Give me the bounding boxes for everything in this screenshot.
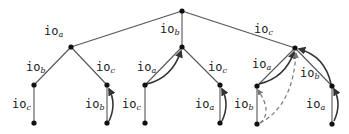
edge-label: iob xyxy=(300,66,320,81)
edge-label: ioa xyxy=(195,97,214,112)
edge-label: iob xyxy=(160,22,180,37)
edge-label: iob xyxy=(26,60,46,75)
edge-label: ioa xyxy=(44,24,63,39)
edge-label: ioa xyxy=(306,97,325,112)
curved-arrow xyxy=(222,89,226,121)
tree-node xyxy=(31,82,36,87)
tree-node xyxy=(329,83,334,88)
tree-node xyxy=(217,82,222,87)
dashed-arrow xyxy=(258,90,266,123)
tree-node xyxy=(292,45,297,50)
edge-label: ioc xyxy=(208,60,227,75)
edge-label: ioc xyxy=(122,97,141,112)
edge-label: ioc xyxy=(96,60,115,75)
tree-node xyxy=(179,44,184,49)
edge-labels: ioaiobiociobiocioaiocioaiobiociobiocioai… xyxy=(12,22,325,112)
tree-node xyxy=(254,83,259,88)
edge-label: ioc xyxy=(254,22,273,37)
curved-arrow xyxy=(334,89,338,121)
curved-arrow xyxy=(109,89,113,121)
tree-node xyxy=(254,121,259,126)
edge-label: ioa xyxy=(137,60,156,75)
tree-diagram: ioaiobiociobiocioaiocioaiobiociobiocioai… xyxy=(0,0,349,134)
edge-label: ioc xyxy=(12,97,31,112)
tree-nodes xyxy=(31,8,334,126)
tree-edges xyxy=(34,11,332,124)
tree-node xyxy=(142,120,147,125)
edge-label: iob xyxy=(234,97,254,112)
tree-node xyxy=(68,44,73,49)
tree-node xyxy=(329,121,334,126)
tree-edge xyxy=(182,11,295,48)
edge-label: iob xyxy=(85,97,105,112)
tree-node xyxy=(217,120,222,125)
tree-node xyxy=(142,82,147,87)
edge-label: ioa xyxy=(252,57,271,72)
tree-node xyxy=(104,120,109,125)
tree-node xyxy=(104,82,109,87)
tree-node xyxy=(31,120,36,125)
tree-node xyxy=(179,8,184,13)
